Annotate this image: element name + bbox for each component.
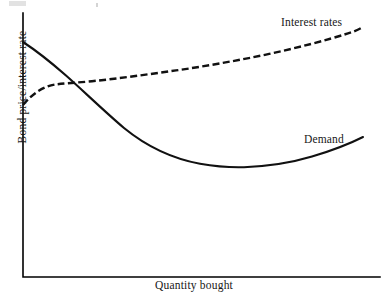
demand-curve	[23, 42, 363, 167]
interest-rates-curve	[23, 27, 363, 105]
series-label-interest-rates: Interest rates	[281, 16, 342, 28]
chart-figure: Interest rates Demand Quantity bought Bo…	[0, 0, 388, 294]
y-axis-label-container: Bond price/interest rate	[16, 11, 32, 163]
plot-area	[0, 0, 388, 294]
series-label-demand: Demand	[304, 133, 344, 145]
chart-axes	[23, 13, 380, 277]
y-axis-label: Bond price/interest rate	[16, 11, 28, 163]
x-axis-label: Quantity bought	[0, 279, 388, 291]
